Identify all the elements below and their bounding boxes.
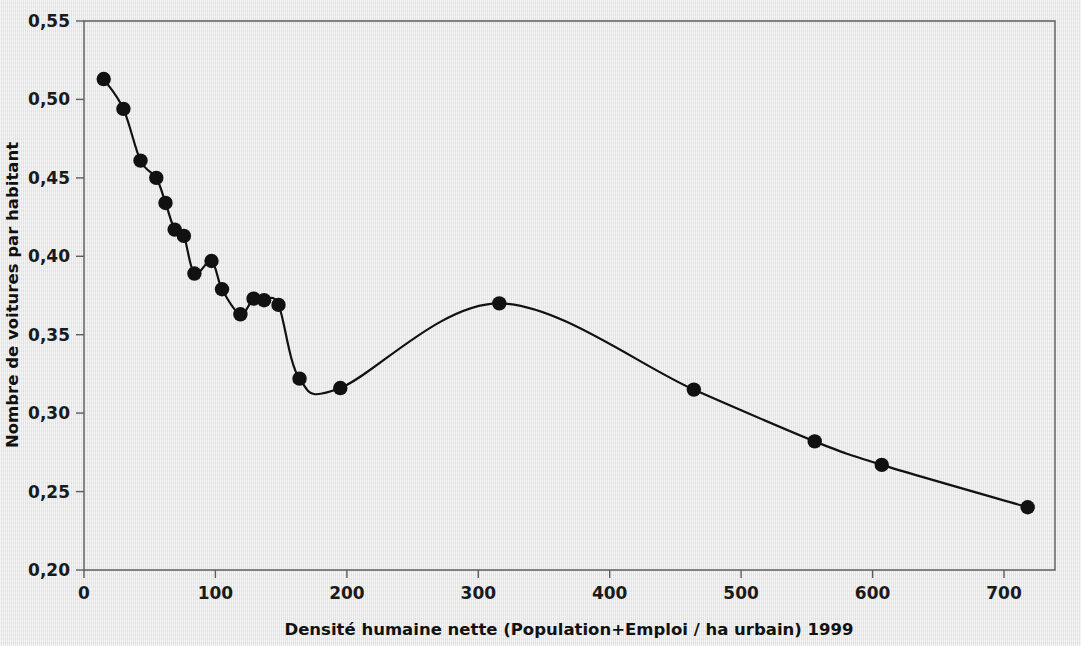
data-point-marker <box>149 171 163 185</box>
data-point-marker <box>116 102 130 116</box>
y-tick-label-020: 0,20 <box>28 560 70 580</box>
x-axis-ticks <box>84 570 1004 578</box>
data-point-marker <box>292 371 306 385</box>
x-tick-label-700: 700 <box>986 583 1022 603</box>
plot-frame <box>84 21 1055 570</box>
data-point-marker <box>333 381 347 395</box>
data-point-marker <box>271 298 285 312</box>
frame-path <box>84 21 1055 570</box>
y-axis-title: Nombre de voitures par habitant <box>3 142 22 448</box>
data-point-marker <box>97 72 111 86</box>
data-point-marker <box>687 382 701 396</box>
x-axis-tick-labels: 0 100 200 300 400 500 600 700 <box>78 583 1022 603</box>
y-axis-ticks <box>76 21 84 570</box>
y-tick-label-040: 0,40 <box>28 246 70 266</box>
data-point-marker <box>808 434 822 448</box>
x-tick-label-100: 100 <box>198 583 234 603</box>
x-tick-label-600: 600 <box>855 583 891 603</box>
data-point-marker <box>187 266 201 280</box>
scatter-line-chart-figure: 0,55 0,50 0,45 0,40 0,35 0,30 0,25 0,20 … <box>0 0 1081 646</box>
y-tick-label-055: 0,55 <box>28 11 70 31</box>
y-tick-label-035: 0,35 <box>28 325 70 345</box>
x-axis-title: Densité humaine nette (Population+Emploi… <box>284 620 853 639</box>
data-point-marker <box>257 293 271 307</box>
y-tick-label-025: 0,25 <box>28 482 70 502</box>
y-tick-label-045: 0,45 <box>28 168 70 188</box>
chart-svg: 0,55 0,50 0,45 0,40 0,35 0,30 0,25 0,20 … <box>0 0 1081 646</box>
data-point-marker <box>177 229 191 243</box>
data-point-marker <box>233 307 247 321</box>
y-axis-tick-labels: 0,55 0,50 0,45 0,40 0,35 0,30 0,25 0,20 <box>28 11 70 580</box>
y-tick-label-030: 0,30 <box>28 403 70 423</box>
y-tick-label-050: 0,50 <box>28 89 70 109</box>
series-markers-group <box>97 72 1035 515</box>
data-series-group <box>97 72 1035 515</box>
data-point-marker <box>1020 500 1034 514</box>
series-line-path <box>104 79 1028 507</box>
data-point-marker <box>875 458 889 472</box>
x-tick-label-0: 0 <box>78 583 90 603</box>
data-point-marker <box>215 282 229 296</box>
data-point-marker <box>158 196 172 210</box>
x-tick-label-400: 400 <box>592 583 628 603</box>
data-point-marker <box>133 153 147 167</box>
x-tick-label-300: 300 <box>461 583 497 603</box>
x-tick-label-500: 500 <box>723 583 759 603</box>
data-point-marker <box>492 296 506 310</box>
x-tick-label-200: 200 <box>329 583 365 603</box>
data-point-marker <box>204 254 218 268</box>
